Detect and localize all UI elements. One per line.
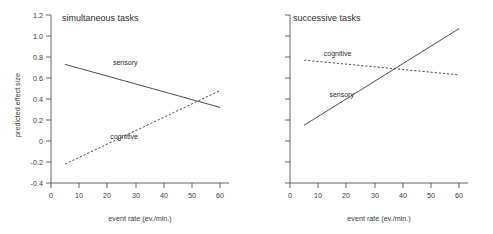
series-line-cognitive-left [65, 91, 220, 165]
panel-title-left: simultaneous tasks [62, 13, 139, 23]
x-ticks-left [51, 183, 220, 188]
y-tick-label: 1.2 [33, 11, 43, 20]
x-tick-label: 60 [216, 191, 224, 200]
series-line-cognitive-right [304, 60, 459, 75]
y-tick-label: 0.8 [33, 53, 43, 62]
x-tick-label: 0 [49, 191, 53, 200]
y-tick-label: 0.2 [33, 116, 43, 125]
plot-area-left: simultaneous tasks predicted effect size… [0, 0, 246, 234]
y-tick-label: 1.0 [33, 32, 43, 41]
x-tick-label: 30 [132, 191, 140, 200]
y-tick-label: 0.6 [33, 74, 43, 83]
x-tick-label: 50 [188, 191, 196, 200]
x-tick-label: 50 [427, 191, 435, 200]
series-line-sensory-right [304, 29, 459, 126]
x-axis-label-left: event rate (ev./min.) [108, 214, 171, 223]
panel-title-right: successive tasks [293, 13, 361, 23]
y-ticks-right [285, 15, 290, 183]
x-tick-label: 20 [103, 191, 111, 200]
x-tick-label: 60 [455, 191, 463, 200]
panel-simultaneous-tasks: simultaneous tasks predicted effect size… [0, 0, 246, 234]
y-tick-label: -0.4 [31, 179, 43, 188]
y-axis-label-left: predicted effect size [13, 73, 22, 137]
x-tick-label: 40 [160, 191, 168, 200]
x-tick-label: 40 [399, 191, 407, 200]
y-tick-label: 0 [39, 137, 43, 146]
x-tick-label: 0 [288, 191, 292, 200]
y-tick-label: 0.4 [33, 95, 43, 104]
series-label-sensory-left: sensory [113, 59, 138, 67]
plot-area-right: successive tasks [247, 0, 493, 234]
x-tick-label: 20 [342, 191, 350, 200]
y-ticks-left [46, 15, 51, 183]
series-label-sensory-right: sensory [329, 91, 354, 99]
x-tick-label: 10 [314, 191, 322, 200]
series-line-sensory-left [65, 64, 220, 107]
x-tick-labels-left: 0 10 20 30 40 50 60 [49, 191, 224, 200]
x-tick-label: 30 [371, 191, 379, 200]
series-label-cognitive-right: cognitive [324, 50, 352, 58]
y-tick-label: -0.2 [31, 158, 43, 167]
figure-two-panel-line-chart: simultaneous tasks predicted effect size… [0, 0, 493, 234]
y-tick-labels-left: -0.4 -0.2 0 0.2 0.4 0.6 0.8 1.0 1.2 [31, 11, 43, 188]
panel-successive-tasks: successive tasks [247, 0, 493, 234]
series-label-cognitive-left: cognitive [110, 133, 138, 141]
x-tick-label: 10 [75, 191, 83, 200]
x-tick-labels-right: 0 10 20 30 40 50 60 [288, 191, 463, 200]
x-ticks-right [290, 183, 459, 188]
x-axis-label-right: event rate (ev./min.) [347, 214, 410, 223]
